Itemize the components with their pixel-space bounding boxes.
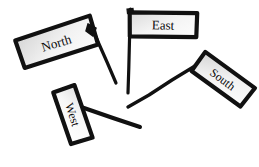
flag-east[interactable]: East <box>127 9 197 94</box>
flag-south-pole <box>128 66 195 107</box>
flag-east-label: East <box>152 17 175 32</box>
illustration-canvas: North East South West <box>0 0 259 167</box>
flag-east-pole-top <box>127 9 134 14</box>
flag-south[interactable]: South <box>128 51 255 108</box>
flag-north[interactable]: North <box>15 16 116 83</box>
direction-flags-drawing: North East South West <box>0 0 259 167</box>
